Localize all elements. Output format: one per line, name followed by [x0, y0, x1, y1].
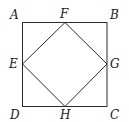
geometry-diagram: A F B E G D H C: [0, 0, 129, 122]
label-a: A: [9, 8, 19, 22]
label-b: B: [109, 8, 119, 22]
outer-square-abcd: [23, 23, 108, 107]
label-h: H: [59, 108, 71, 122]
label-f: F: [59, 7, 69, 21]
label-e: E: [8, 57, 18, 71]
label-g: G: [110, 57, 120, 71]
inner-square-efgh: [23, 23, 108, 107]
label-d: D: [9, 108, 20, 122]
label-c: C: [110, 108, 119, 122]
